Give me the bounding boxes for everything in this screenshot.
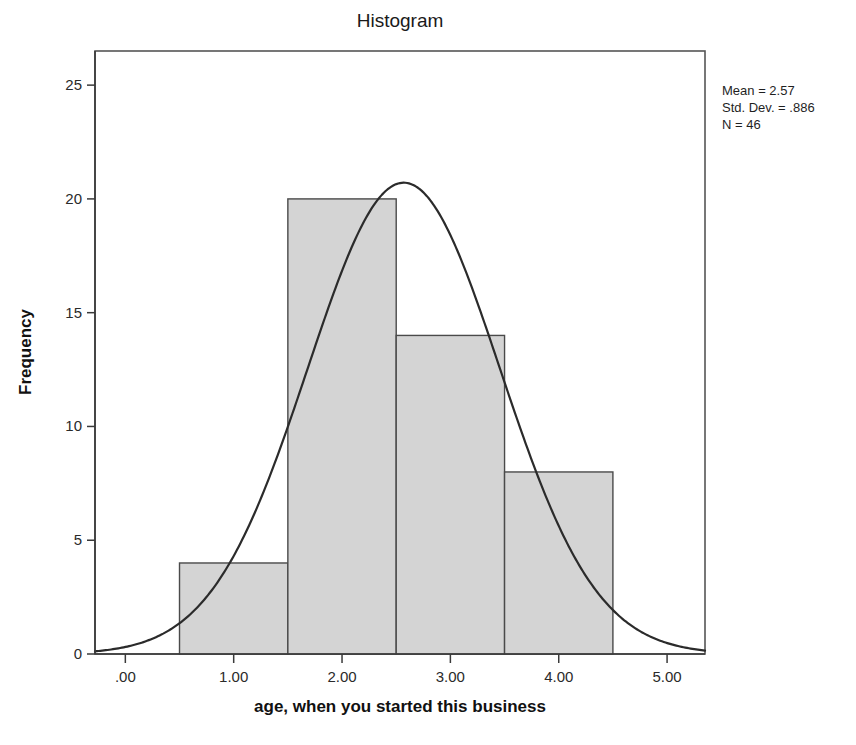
x-tick-label: 5.00 [652, 668, 681, 685]
x-tick-label: 3.00 [436, 668, 465, 685]
x-tick-label: .00 [115, 668, 136, 685]
y-tick-label: 10 [65, 417, 82, 434]
std-dev-label: Std. Dev. = .886 [722, 100, 815, 115]
histogram-bar [288, 199, 396, 654]
histogram-bar [505, 472, 613, 654]
x-tick-label: 1.00 [219, 668, 248, 685]
chart-title: Histogram [357, 10, 444, 31]
histogram-chart: Histogram 0510152025 .001.002.003.004.00… [0, 0, 856, 745]
x-tick-label: 2.00 [327, 668, 356, 685]
y-tick-label: 15 [65, 304, 82, 321]
x-axis-title: age, when you started this business [254, 697, 546, 716]
y-tick-label: 5 [74, 531, 82, 548]
histogram-canvas: Histogram 0510152025 .001.002.003.004.00… [0, 0, 856, 745]
sample-size-label: N = 46 [722, 117, 761, 132]
y-tick-label: 20 [65, 190, 82, 207]
y-tick-label: 25 [65, 76, 82, 93]
y-tick-label: 0 [74, 645, 82, 662]
histogram-bar [396, 335, 504, 654]
y-axis-title: Frequency [16, 308, 35, 395]
mean-label: Mean = 2.57 [722, 83, 795, 98]
x-tick-label: 4.00 [544, 668, 573, 685]
